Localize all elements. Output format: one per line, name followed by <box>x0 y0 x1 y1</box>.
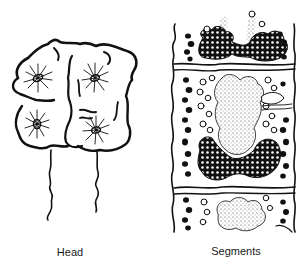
sucker-top-right <box>82 63 108 92</box>
head-drawing <box>13 40 136 220</box>
head-label: Head <box>40 246 100 258</box>
sucker-bottom-left <box>25 110 49 138</box>
sucker-top-left <box>24 64 52 92</box>
tapeworm-illustration <box>0 0 306 270</box>
segments-label: Segments <box>200 245 272 257</box>
sucker-bottom-right <box>83 116 109 144</box>
segments-drawing <box>172 11 296 232</box>
